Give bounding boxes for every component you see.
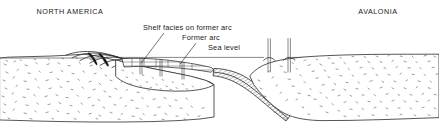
label-north-america: NORTH AMERICA	[37, 7, 104, 16]
label-sea-level: Sea level	[208, 43, 240, 52]
cross-section-canvas: NORTH AMERICA AVALONIA Shelf facies on f…	[0, 0, 439, 140]
label-shelf-facies: Shelf facies on former arc	[143, 23, 232, 32]
leader-former-arc	[180, 43, 196, 64]
geologic-cross-section-figure: NORTH AMERICA AVALONIA Shelf facies on f…	[0, 0, 439, 140]
label-avalonia: AVALONIA	[358, 7, 397, 16]
label-former-arc: Former arc	[182, 33, 220, 42]
